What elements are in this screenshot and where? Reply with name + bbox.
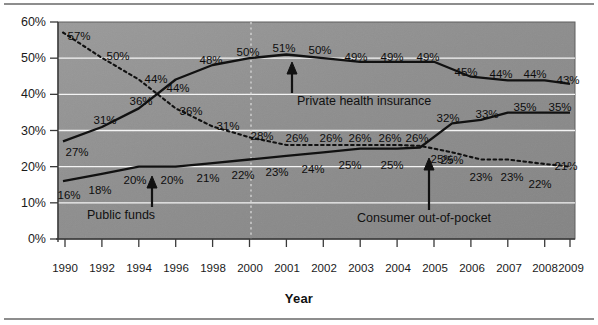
data-label-private-1994: 44% [144,73,167,85]
data-label-private-1990: 57% [67,30,90,42]
data-label-consumer-2009: 35% [548,101,571,113]
data-label-consumer-2002: 24% [301,163,324,175]
data-label-private-2008: 23% [500,171,523,183]
y-tick-label-10: 10% [4,196,46,210]
x-axis-title: Year [0,291,598,306]
data-label-private-1996: 36% [179,105,202,117]
data-label-private-2007: 23% [469,171,492,183]
annotation-public-funds: Public funds [87,208,155,222]
data-label-public-2002: 50% [308,44,331,56]
data-label-consumer-1998: 21% [196,172,219,184]
data-label-consumer-1992: 18% [88,184,111,196]
data-label-public-2006: 45% [454,66,477,78]
data-label-private-1992: 50% [106,50,129,62]
y-tick-label-50: 50% [4,51,46,65]
data-label-public-2008: 44% [523,68,546,80]
data-label-public-2009: 43% [556,74,579,86]
data-label-private-2009: 21% [554,160,577,172]
data-label-private-1998: 31% [216,120,239,132]
data-label-private-2008b: 22% [528,178,551,190]
data-label-consumer-2006: 32% [436,112,459,124]
data-label-public-1992: 31% [93,114,116,126]
data-label-private-2005: 26% [405,132,428,144]
data-label-public-1990: 27% [65,146,88,158]
annotation-consumer-out-of-pocket: Consumer out-of-pocket [357,211,491,225]
data-label-public-2004: 49% [380,51,403,63]
data-label-consumer-1996: 20% [160,174,183,186]
y-tick-label-30: 30% [4,124,46,138]
data-label-public-2007: 44% [489,68,512,80]
data-label-consumer-1994: 20% [123,174,146,186]
data-label-consumer-2007: 33% [475,108,498,120]
data-label-public-1996: 44% [166,82,189,94]
data-label-private-2000: 28% [250,130,273,142]
data-label-public-1994: 36% [129,95,152,107]
data-label-consumer-2000: 22% [231,169,254,181]
data-label-consumer-2004: 25% [380,159,403,171]
data-label-consumer-2008: 35% [513,101,536,113]
data-label-public-2005: 49% [416,51,439,63]
y-tick-label-0: 0% [4,232,46,246]
data-label-public-2001: 51% [272,42,295,54]
x-tick-label-2009: 2009 [549,262,593,274]
data-label-consumer-1990: 16% [57,189,80,201]
data-label-private-2004: 26% [378,132,401,144]
data-label-public-2003: 49% [344,51,367,63]
y-tick-label-60: 60% [4,15,46,29]
data-label-public-2000: 50% [236,46,259,58]
y-axis-ticks [50,22,58,239]
data-label-consumer-2005: 25% [430,153,453,165]
annotation-private-health-insurance: Private health insurance [297,94,431,108]
data-label-private-2001: 26% [285,132,308,144]
data-label-consumer-2001: 23% [265,166,288,178]
data-label-private-2002: 26% [319,132,342,144]
data-label-consumer-2003: 25% [338,159,361,171]
x-axis-ticks [65,239,570,247]
data-label-private-2003: 26% [348,132,371,144]
line-chart-canvas [0,0,598,325]
y-tick-label-40: 40% [4,87,46,101]
y-tick-label-20: 20% [4,160,46,174]
data-label-public-1998: 48% [199,54,222,66]
chart-figure: 60% 50% 40% 30% 20% 10% 0% 1990 1992 199… [0,0,598,325]
